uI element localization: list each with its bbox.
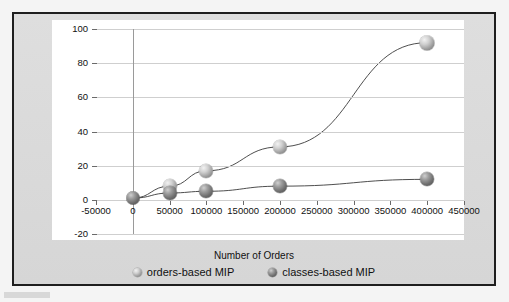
x-tick-label: 0	[130, 206, 135, 216]
x-tick-label: 300000	[338, 206, 370, 216]
x-tick-mark	[280, 201, 281, 205]
data-point-classes-based-mip[interactable]	[273, 179, 287, 193]
x-tick-mark	[96, 201, 97, 205]
figure-root: Number of Decision Variables in V0 10080…	[0, 0, 509, 302]
x-tick-label: 100000	[191, 206, 223, 216]
chart-frame: Number of Decision Variables in V0 10080…	[12, 12, 496, 286]
data-point-classes-based-mip[interactable]	[126, 192, 139, 205]
x-tick-mark	[390, 201, 391, 205]
legend-label-classes-based-mip: classes-based MIP	[282, 266, 375, 278]
x-tick-label: 400000	[411, 206, 443, 216]
gridline-y	[96, 234, 464, 235]
x-tick-label: 50000	[156, 206, 182, 216]
data-point-orders-based-mip[interactable]	[199, 164, 213, 178]
plot-panel: 100806040200-20-500000500001000001500002…	[52, 20, 464, 240]
legend-item-classes-based-mip[interactable]: classes-based MIP	[268, 266, 375, 278]
y-tick-mark	[92, 29, 97, 30]
x-axis-title: Number of Orders	[14, 250, 494, 261]
data-point-classes-based-mip[interactable]	[199, 184, 213, 198]
x-tick-label: 200000	[264, 206, 296, 216]
x-tick-mark	[317, 201, 318, 205]
y-tick-label: 0	[54, 195, 88, 205]
y-tick-label: 20	[54, 161, 88, 171]
data-point-classes-based-mip[interactable]	[420, 172, 434, 186]
gridline-y	[96, 97, 464, 98]
y-tick-label: 100	[54, 24, 88, 34]
plot-area: 100806040200-20-500000500001000001500002…	[52, 20, 464, 240]
legend-sphere-light-icon	[133, 268, 142, 277]
x-tick-label: 450000	[448, 206, 480, 216]
legend-item-orders-based-mip[interactable]: orders-based MIP	[133, 266, 234, 278]
gridline-y	[96, 63, 464, 64]
legend-label-orders-based-mip: orders-based MIP	[147, 266, 234, 278]
y-tick-mark	[92, 63, 97, 64]
chart-frame-inner: Number of Decision Variables in V0 10080…	[14, 14, 494, 284]
x-tick-mark	[427, 201, 428, 205]
y-tick-label: 80	[54, 58, 88, 68]
x-tick-mark	[170, 201, 171, 205]
data-point-classes-based-mip[interactable]	[163, 186, 177, 200]
x-tick-label: 350000	[375, 206, 407, 216]
legend-sphere-dark-icon	[268, 268, 277, 277]
y-tick-label: -20	[54, 229, 88, 239]
chart-legend: orders-based MIP classes-based MIP	[14, 266, 494, 278]
gridline-y	[96, 29, 464, 30]
data-point-orders-based-mip[interactable]	[420, 35, 435, 50]
y-tick-mark	[92, 97, 97, 98]
gridline-y	[96, 132, 464, 133]
y-tick-label: 40	[54, 127, 88, 137]
x-tick-mark	[243, 201, 244, 205]
x-tick-mark	[464, 201, 465, 205]
y-tick-label: 60	[54, 92, 88, 102]
x-tick-label: -50000	[81, 206, 111, 216]
y-tick-mark	[92, 234, 97, 235]
x-tick-mark	[206, 201, 207, 205]
x-tick-label: 250000	[301, 206, 333, 216]
scan-artifact	[4, 292, 50, 298]
x-tick-mark	[354, 201, 355, 205]
y-tick-mark	[92, 132, 97, 133]
x-tick-label: 150000	[227, 206, 259, 216]
data-point-orders-based-mip[interactable]	[273, 140, 287, 154]
series-line-orders-based-mip	[133, 43, 427, 198]
gridline-y	[96, 166, 464, 167]
y-tick-mark	[92, 166, 97, 167]
